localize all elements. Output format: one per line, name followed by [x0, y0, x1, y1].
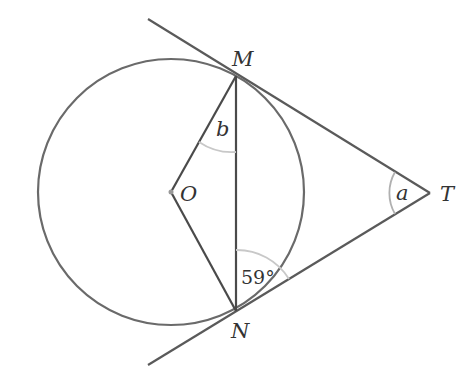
angle-label-a: a — [396, 181, 409, 205]
diagram: M N O T b a 59° — [0, 0, 475, 382]
label-o: O — [180, 182, 197, 206]
label-m: M — [231, 47, 254, 71]
angle-arc-a — [389, 172, 395, 214]
radius-on — [171, 192, 236, 311]
center-dot — [169, 190, 174, 195]
tangent-tm — [148, 19, 430, 193]
angle-label-59: 59° — [241, 266, 275, 288]
angle-arc-b — [199, 142, 236, 152]
geometry-figure: M N O T b a 59° — [0, 0, 475, 382]
label-t: T — [440, 182, 456, 206]
label-n: N — [230, 319, 250, 343]
angle-label-b: b — [216, 117, 229, 141]
